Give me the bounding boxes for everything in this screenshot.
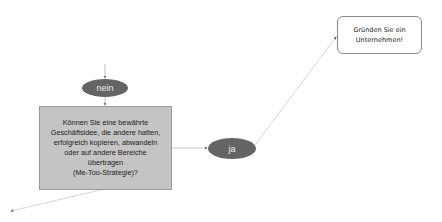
nein-node: nein — [82, 79, 128, 97]
question-node: Können Sie eine bewährte Geschäftsidee, … — [39, 106, 172, 190]
nein-label: nein — [96, 83, 113, 93]
ja-label: ja — [228, 144, 235, 154]
edge-ja-to-result — [255, 37, 336, 145]
result-label: Gründen Sie ein Unternehmen! — [353, 25, 405, 45]
edge-question-out — [11, 190, 100, 211]
question-label: Können Sie eine bewährte Geschäftsidee, … — [51, 118, 161, 178]
result-node: Gründen Sie ein Unternehmen! — [337, 16, 422, 54]
ja-node: ja — [208, 138, 256, 159]
